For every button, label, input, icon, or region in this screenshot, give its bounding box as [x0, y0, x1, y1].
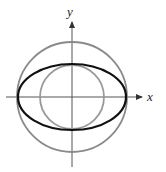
y-axis-label: y [65, 4, 73, 19]
x-axis-label: x [146, 89, 153, 104]
diagram-canvas: x y [0, 0, 166, 172]
